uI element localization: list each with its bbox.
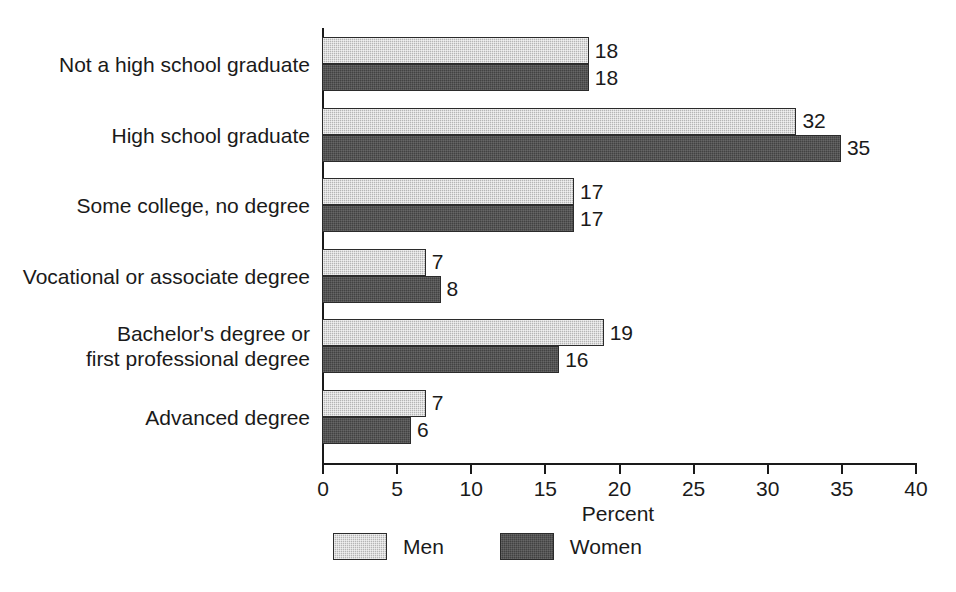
bar-men: 18 [322,37,589,64]
category-label: Not a high school graduate [59,52,310,77]
bar-women: 8 [322,276,441,303]
legend-swatch-men-icon [333,533,387,560]
bar-value-label: 18 [595,66,618,90]
bar-men: 32 [322,108,796,135]
legend-swatch-women-icon [500,533,554,560]
category-label: Vocational or associate degree [23,263,310,288]
x-tick [841,465,843,474]
x-tick-label: 35 [830,476,853,502]
bar-women: 16 [322,346,559,373]
bar-group: High school graduate3235 [322,108,915,162]
category-label: Some college, no degree [77,193,311,218]
bar-women: 18 [322,64,589,91]
x-tick [619,465,621,474]
x-tick-label: 15 [534,476,557,502]
bar-group: Advanced degree76 [322,390,915,444]
x-tick [470,465,472,474]
bar-men: 7 [322,390,426,417]
bar-group: Vocational or associate degree78 [322,249,915,303]
bar-value-label: 7 [432,250,444,274]
bar-group: Some college, no degree1717 [322,178,915,232]
plot-area: Not a high school graduate1818High schoo… [322,30,915,462]
x-tick-label: 25 [682,476,705,502]
bar-group: Bachelor's degree or first professional … [322,319,915,373]
x-tick [767,465,769,474]
bar-value-label: 19 [610,321,633,345]
legend-item-women: Women [500,533,642,560]
x-tick-label: 30 [756,476,779,502]
bar-value-label: 6 [417,418,429,442]
x-tick [322,465,324,474]
x-tick-label: 10 [460,476,483,502]
legend-label-women: Women [570,535,642,559]
x-tick [544,465,546,474]
category-label: High school graduate [112,122,310,147]
x-tick [915,465,917,474]
x-tick [396,465,398,474]
bar-value-label: 7 [432,391,444,415]
legend-label-men: Men [403,535,444,559]
bar-group: Not a high school graduate1818 [322,37,915,91]
x-tick [693,465,695,474]
bar-value-label: 32 [802,109,825,133]
bar-men: 7 [322,249,426,276]
bar-men: 17 [322,178,574,205]
x-tick-label: 5 [391,476,403,502]
bar-value-label: 35 [847,136,870,160]
bar-women: 17 [322,205,574,232]
bar-value-label: 17 [580,180,603,204]
bar-women: 6 [322,417,411,444]
bar-women: 35 [322,135,841,162]
category-label: Advanced degree [145,404,310,429]
x-tick-label: 20 [608,476,631,502]
bar-value-label: 8 [447,277,459,301]
chart-legend: Men Women [333,533,642,560]
legend-item-men: Men [333,533,444,560]
x-tick-label: 0 [317,476,329,502]
bar-value-label: 18 [595,39,618,63]
bar-value-label: 17 [580,207,603,231]
x-tick-label: 40 [904,476,927,502]
bar-value-label: 16 [565,348,588,372]
x-axis-title: Percent [582,502,654,526]
category-label: Bachelor's degree or first professional … [86,321,310,371]
bar-chart: 0510152025303540 Not a high school gradu… [0,0,956,592]
bar-men: 19 [322,319,604,346]
